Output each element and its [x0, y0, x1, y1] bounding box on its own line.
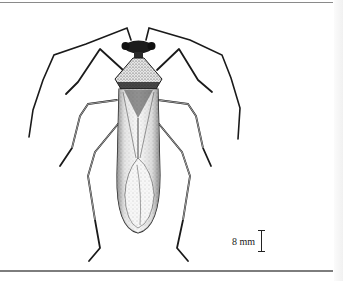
- page-edge: [334, 0, 343, 281]
- insect-illustration: [0, 0, 343, 281]
- bottom-rule: [0, 270, 333, 272]
- scale-bar-label: 8 mm: [232, 236, 255, 247]
- figure-frame: 8 mm: [0, 0, 343, 281]
- scale-bar-graphic: [258, 230, 265, 252]
- scale-bar: 8 mm: [232, 230, 265, 252]
- head: [122, 41, 156, 59]
